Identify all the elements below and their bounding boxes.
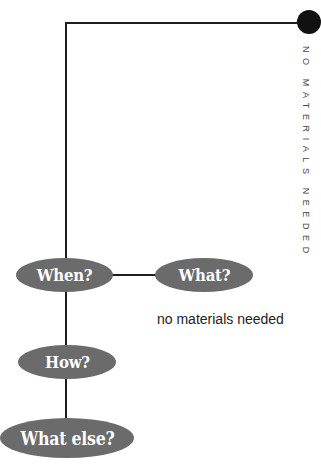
when-what-connector — [110, 274, 160, 276]
node-how-label: How? — [45, 352, 90, 372]
node-when-label: When? — [37, 265, 93, 285]
node-what-else: What else? — [0, 418, 134, 458]
node-what-label: What? — [178, 265, 230, 285]
top-horizontal-connector — [65, 22, 305, 24]
node-what-else-label: What else? — [20, 428, 114, 449]
side-label: NO MATERIALS NEEDED — [301, 46, 311, 259]
what-caption: no materials needed — [157, 311, 284, 327]
node-how: How? — [18, 345, 116, 379]
node-what: What? — [155, 258, 253, 292]
node-when: When? — [16, 258, 113, 292]
start-dot-icon — [297, 10, 321, 34]
